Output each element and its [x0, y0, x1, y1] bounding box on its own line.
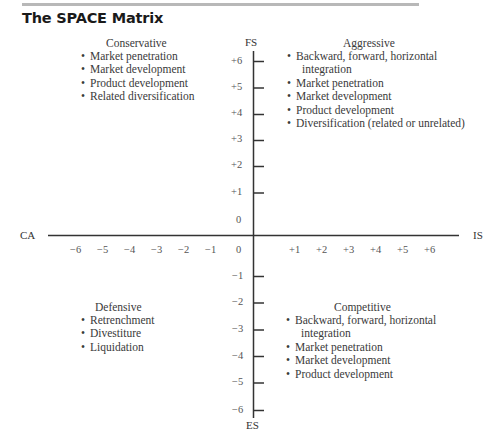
x-tick-label: +5 — [397, 244, 408, 255]
y-tick-label: −1 — [232, 270, 243, 281]
list-item: •Market penetration — [286, 341, 436, 354]
x-tick-label: −3 — [151, 244, 162, 255]
list-item-continuation: integration — [287, 63, 465, 76]
quadrant-title: Competitive — [334, 301, 436, 313]
y-tick-label: +4 — [231, 107, 242, 118]
y-tick-label: −2 — [232, 296, 243, 307]
list-item: •Product development — [81, 77, 194, 90]
y-tick-label: +1 — [231, 186, 242, 197]
x-tick-label: +4 — [370, 244, 381, 255]
list-item: •Market development — [81, 63, 194, 76]
list-item: •Liquidation — [81, 341, 155, 354]
list-item: •Backward, forward, horizontal — [287, 50, 465, 63]
axis-label-ca: CA — [20, 229, 35, 241]
strategy-list: •Backward, forward, horizontal integrati… — [286, 314, 436, 381]
list-item: •Divestiture — [81, 327, 155, 340]
axis-label-es: ES — [246, 419, 259, 431]
x-tick-label: −2 — [178, 244, 189, 255]
x-tick-label: 0 — [236, 244, 241, 255]
y-tick-label: 0 — [236, 214, 241, 225]
list-item: •Retrenchment — [81, 314, 155, 327]
y-tick-label: −5 — [232, 376, 243, 387]
x-tick-label: +1 — [289, 244, 300, 255]
list-item: •Product development — [287, 104, 465, 117]
y-tick-label: +5 — [231, 81, 242, 92]
x-tick-label: −1 — [205, 244, 216, 255]
quadrant-title: Defensive — [95, 301, 155, 313]
x-tick-label: −6 — [70, 244, 81, 255]
y-tick-label: −4 — [232, 350, 243, 361]
list-item: •Market development — [287, 90, 465, 103]
strategy-list: •Backward, forward, horizontal integrati… — [287, 50, 465, 130]
quadrant-title: Conservative — [106, 37, 194, 49]
list-item: •Related diversification — [81, 90, 194, 103]
y-tick-label: +2 — [231, 159, 242, 170]
strategy-list: •Market penetration •Market development … — [81, 50, 194, 104]
list-item: •Market development — [286, 354, 436, 367]
x-tick-label: −5 — [97, 244, 108, 255]
y-tick-label: +3 — [231, 133, 242, 144]
quadrant-defensive: Defensive •Retrenchment •Divestiture •Li… — [81, 301, 155, 354]
x-tick-label: −4 — [124, 244, 135, 255]
x-tick-label: +2 — [316, 244, 327, 255]
list-item: •Market penetration — [81, 50, 194, 63]
quadrant-competitive: Competitive •Backward, forward, horizont… — [286, 301, 436, 381]
quadrant-conservative: Conservative •Market penetration •Market… — [81, 37, 194, 104]
list-item-continuation: integration — [286, 327, 436, 340]
x-tick-label: +3 — [343, 244, 354, 255]
axis-label-fs: FS — [245, 36, 257, 48]
quadrant-title: Aggressive — [343, 37, 465, 49]
x-tick-label: +6 — [424, 244, 435, 255]
list-item: •Diversification (related or unrelated) — [287, 117, 465, 130]
list-item: •Market penetration — [287, 77, 465, 90]
list-item: •Product development — [286, 368, 436, 381]
strategy-list: •Retrenchment •Divestiture •Liquidation — [81, 314, 155, 354]
list-item: •Backward, forward, horizontal — [286, 314, 436, 327]
axis-label-is: IS — [473, 229, 483, 241]
y-tick-label: −6 — [232, 404, 243, 415]
y-tick-label: +6 — [231, 55, 242, 66]
quadrant-aggressive: Aggressive •Backward, forward, horizonta… — [287, 37, 465, 130]
y-tick-label: −3 — [232, 323, 243, 334]
